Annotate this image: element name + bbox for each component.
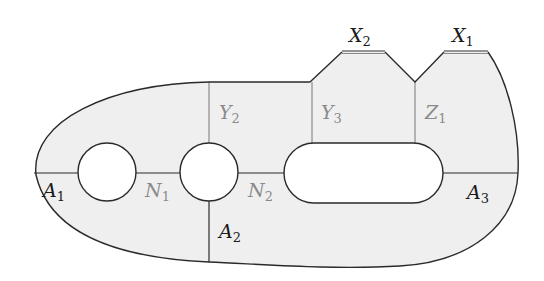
stadium-hole — [284, 143, 443, 203]
label-x1: X1 — [450, 24, 474, 49]
surface-diagram: X2 X1 Y2 Y3 Z1 A1 N1 N2 A2 A3 — [0, 0, 544, 281]
middle-circle-hole — [180, 143, 238, 201]
left-circle-hole — [78, 143, 136, 201]
label-x2: X2 — [347, 24, 371, 49]
